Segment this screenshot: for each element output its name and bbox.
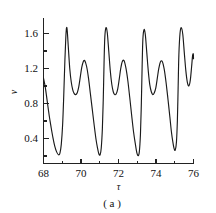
x-tick-label-3: 72 [113, 167, 124, 179]
x-tick-label-2: 70 [76, 167, 88, 179]
y-tick-label-1: 1.6 [24, 27, 38, 39]
y-axis-title: v [8, 89, 19, 94]
figure-panel: 1.6 1.2 0.8 0.4 68 70 72 74 76 τ v ( a ) [0, 0, 216, 213]
x-tick-label-4: 74 [151, 167, 163, 179]
data-series-line [44, 27, 194, 155]
x-axis-major-ticks [44, 159, 194, 164]
y-tick-label-2: 1.2 [24, 62, 38, 74]
x-tick-label-5: 76 [188, 167, 200, 179]
x-tick-label-1: 68 [38, 167, 50, 179]
figure-caption: ( a ) [103, 197, 121, 210]
y-tick-label-4: 0.4 [24, 132, 38, 144]
chart-canvas: 1.6 1.2 0.8 0.4 68 70 72 74 76 τ v ( a ) [0, 0, 216, 213]
x-axis-title: τ [117, 181, 121, 192]
y-tick-label-3: 0.8 [24, 97, 38, 109]
